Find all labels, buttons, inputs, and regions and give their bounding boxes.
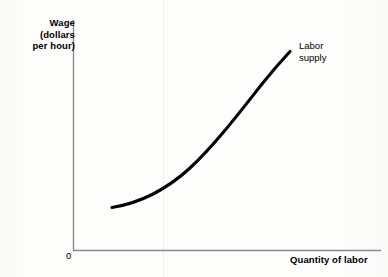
y-axis-label: Wage (dollars per hour) bbox=[32, 17, 75, 52]
labor-supply-chart: Wage (dollars per hour) Quantity of labo… bbox=[0, 0, 388, 277]
x-axis-label: Quantity of labor bbox=[290, 254, 368, 266]
origin-label: 0 bbox=[66, 250, 71, 261]
labor-supply-annotation: Labor supply bbox=[299, 40, 326, 63]
labor-supply-annotation-line-2: supply bbox=[299, 52, 326, 64]
y-axis-label-line-2: (dollars bbox=[32, 29, 75, 41]
y-axis-label-line-1: Wage bbox=[32, 17, 75, 29]
y-axis-label-line-3: per hour) bbox=[32, 40, 75, 52]
labor-supply-curve bbox=[112, 52, 290, 208]
labor-supply-annotation-line-1: Labor bbox=[299, 40, 326, 52]
